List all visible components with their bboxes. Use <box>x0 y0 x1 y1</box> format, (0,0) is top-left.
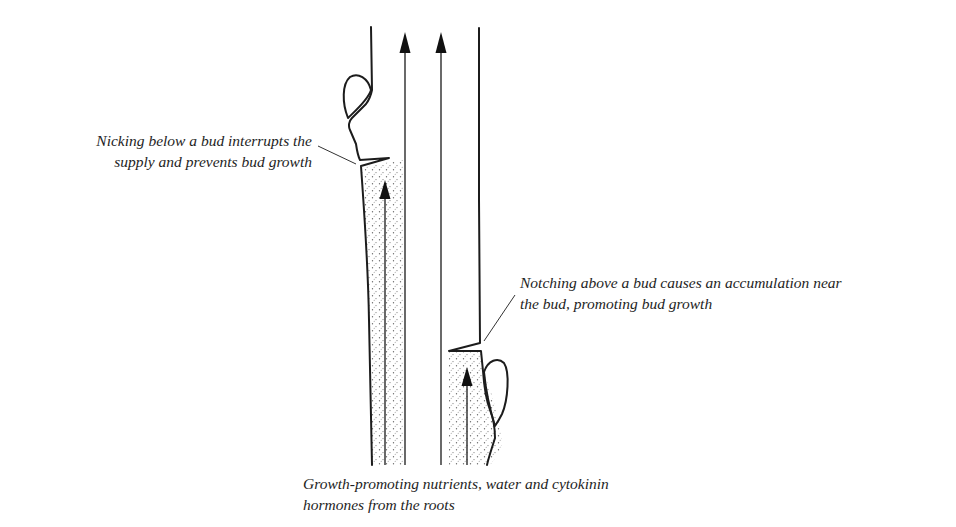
flow-arrow-up-icon <box>400 32 411 53</box>
notching-annotation-line2: the bud, promoting bud growth <box>520 293 842 314</box>
roots-annotation-line2: hormones from the roots <box>303 494 609 515</box>
notching-annotation: Notching above a bud causes an accumulat… <box>520 272 842 314</box>
roots-annotation: Growth-promoting nutrients, water and cy… <box>303 473 609 515</box>
notching-annotation-line1: Notching above a bud causes an accumulat… <box>520 272 842 293</box>
diagram-canvas: Nicking below a bud interrupts the suppl… <box>0 0 956 527</box>
stem-illustration <box>0 0 956 527</box>
flow-arrow-up-icon <box>436 32 447 53</box>
lower-accumulation-stipple <box>449 350 502 465</box>
nicking-annotation: Nicking below a bud interrupts the suppl… <box>96 130 312 172</box>
nick-leader-line <box>318 146 356 164</box>
nicking-annotation-line2: supply and prevents bud growth <box>96 151 312 172</box>
notch-leader-line <box>484 295 515 341</box>
roots-annotation-line1: Growth-promoting nutrients, water and cy… <box>303 473 609 494</box>
nicking-annotation-line1: Nicking below a bud interrupts the <box>96 130 312 151</box>
